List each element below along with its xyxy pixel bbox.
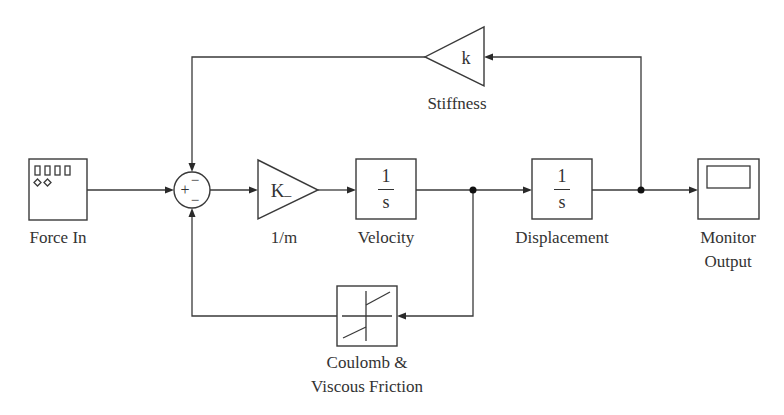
- wire-stiffness-to-sum: [192, 57, 425, 166]
- velocity-label: Velocity: [358, 228, 415, 248]
- arrowhead-icon: [189, 208, 196, 217]
- arrowhead-icon: [484, 54, 493, 61]
- arrowhead-icon: [249, 187, 258, 194]
- sum-sign-plus: +: [180, 182, 189, 198]
- wire-friction-to-sum: [192, 214, 337, 316]
- force-in-label: Force In: [29, 228, 86, 248]
- arrowhead-icon: [689, 187, 698, 194]
- arrowhead-icon: [523, 187, 532, 194]
- displacement-label: Displacement: [515, 228, 608, 248]
- gain-text: K–: [271, 181, 292, 200]
- arrowhead-icon: [347, 187, 356, 194]
- gain-label: 1/m: [271, 228, 297, 248]
- sum-sign-minus-bottom: −: [191, 193, 199, 208]
- friction-label-line1: Coulomb &: [327, 353, 408, 373]
- monitor-output-block[interactable]: [698, 159, 759, 219]
- force-in-block[interactable]: [29, 159, 87, 220]
- displacement-transfer-function: 1 s: [554, 167, 570, 211]
- velocity-transfer-function: 1 s: [378, 167, 394, 211]
- branch-point-velocity: [470, 187, 477, 194]
- stiffness-gain-block[interactable]: [425, 27, 484, 86]
- monitor-label-line1: Monitor: [700, 228, 756, 248]
- arrowhead-icon: [165, 187, 174, 194]
- friction-label-line2: Viscous Friction: [311, 377, 423, 397]
- stiffness-label: Stiffness: [427, 94, 486, 114]
- arrowhead-icon: [397, 313, 406, 320]
- branch-point-displacement: [638, 187, 645, 194]
- coulomb-viscous-friction-block[interactable]: [337, 286, 397, 346]
- stiffness-gain-text: k: [462, 49, 471, 67]
- sum-sign-minus-top: −: [191, 173, 199, 188]
- monitor-label-line2: Output: [704, 252, 751, 272]
